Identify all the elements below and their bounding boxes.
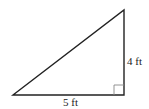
right-angle-marker — [114, 85, 124, 95]
triangle-diagram: 4 ft 5 ft — [0, 0, 149, 109]
base-label: 5 ft — [63, 96, 78, 108]
right-triangle — [13, 10, 124, 95]
height-label: 4 ft — [127, 55, 142, 67]
